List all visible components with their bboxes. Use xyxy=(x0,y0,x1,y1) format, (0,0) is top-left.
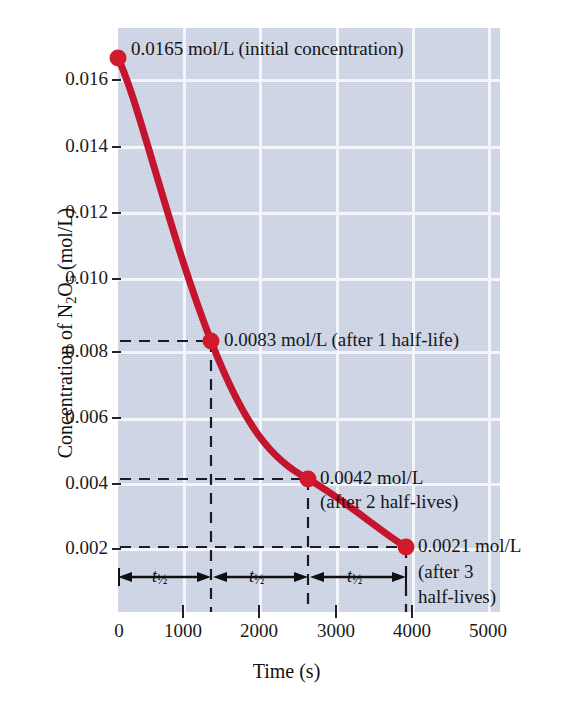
arrowhead-left-3 xyxy=(310,572,324,582)
halflife-label-2-frac: ½ xyxy=(254,572,264,587)
data-point-initial[interactable] xyxy=(110,50,127,67)
figure-root: 0.016 0.014 0.012 0.010 0.008 0.006 0.00… xyxy=(0,0,573,705)
halflife-label-3-frac: ½ xyxy=(352,572,362,587)
halflife-label-1: t½ xyxy=(152,566,167,588)
annotation-halflife-2-line1: 0.0042 mol/L xyxy=(320,467,423,488)
y-axis-label-sub-2: 2 xyxy=(63,297,79,304)
ytick-label: 0.016 xyxy=(48,68,108,90)
data-point-halflife-2[interactable] xyxy=(300,471,317,488)
annotation-halflife-3-line2: (after 3 xyxy=(418,561,473,582)
halflife-label-2: t½ xyxy=(249,566,264,588)
arrowhead-right-3 xyxy=(392,572,406,582)
data-point-halflife-3[interactable] xyxy=(398,539,415,556)
y-axis-label: Concentration of N2O5 (mol/L) xyxy=(54,118,80,548)
arrowhead-right-2 xyxy=(294,572,308,582)
arrowhead-right-1 xyxy=(197,572,211,582)
xtick-label: 3000 xyxy=(305,620,367,642)
xtick-label: 2000 xyxy=(228,620,290,642)
x-axis-label: Time (s) xyxy=(0,660,573,683)
halflife-label-1-frac: ½ xyxy=(157,572,167,587)
annotation-halflife-3-line1: 0.0021 mol/L xyxy=(418,535,521,556)
arrowhead-left-2 xyxy=(213,572,227,582)
y-axis-label-suffix: (mol/L) xyxy=(54,208,76,275)
xtick-label: 0 xyxy=(98,620,140,642)
data-point-halflife-1[interactable] xyxy=(203,333,220,350)
y-axis-label-mid: O xyxy=(54,282,76,296)
arrowhead-left-1 xyxy=(118,572,132,582)
xtick-label: 4000 xyxy=(381,620,443,642)
annotation-halflife-2-line2: (after 2 half-lives) xyxy=(320,491,458,512)
annotation-halflife-1: 0.0083 mol/L (after 1 half-life) xyxy=(224,329,459,350)
annotation-initial-concentration: 0.0165 mol/L (initial concentration) xyxy=(131,38,404,59)
y-axis-label-sub-5: 5 xyxy=(63,275,79,282)
y-axis-label-prefix: Concentration of N xyxy=(54,304,76,458)
halflife-label-3: t½ xyxy=(347,566,362,588)
annotation-halflife-3-line3: half-lives) xyxy=(418,586,496,607)
xtick-label: 5000 xyxy=(457,620,519,642)
xtick-label: 1000 xyxy=(152,620,214,642)
